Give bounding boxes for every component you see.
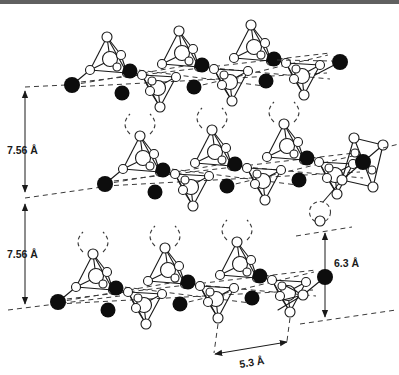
open-atom-icon [315, 216, 325, 226]
dim-left-upper-label: 7.56 Å [7, 144, 38, 156]
filled-atom-icon [317, 269, 333, 285]
layer-bottom [50, 237, 333, 329]
dimension-left-lower: 7.56 Å [7, 187, 120, 310]
dimension-bottom: 5.3 Å [214, 318, 290, 370]
layer-top [64, 20, 348, 112]
open-atom-icon [298, 290, 308, 300]
layer-middle [97, 119, 399, 211]
tetrahedra-chain [97, 119, 363, 211]
interface-arcs-lower [78, 202, 331, 253]
tetrahedra-chain [64, 20, 330, 112]
dimension-right: 6.3 Å [296, 227, 396, 324]
dim-right-label: 6.3 Å [334, 257, 360, 269]
filled-atom-icon [332, 54, 348, 70]
crystal-structure-figure: 7.56 Å 7.56 Å 6.3 Å 5.3 Å [0, 0, 399, 375]
filled-atom-icon [355, 154, 371, 170]
top-border-rule [0, 0, 399, 4]
dimension-left-upper: 7.56 Å [7, 85, 66, 192]
dim-left-lower-label: 7.56 Å [7, 248, 38, 260]
dim-bottom-label: 5.3 Å [239, 354, 266, 370]
structure-diagram-svg: 7.56 Å 7.56 Å 6.3 Å 5.3 Å [0, 0, 399, 375]
tetrahedra-chain [50, 237, 316, 329]
